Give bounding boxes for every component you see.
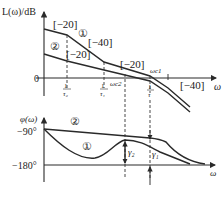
gamma2-label: γ₂ <box>128 147 135 157</box>
gamma1-label: γ₁ <box>152 149 159 159</box>
curve-1-label: ① <box>78 27 88 39</box>
phase-curve-1-label: ① <box>82 140 92 152</box>
tick-minus-90: −90° <box>17 126 37 137</box>
tick-minus-180: −180° <box>12 160 37 171</box>
curve-2-label: ② <box>50 40 60 52</box>
bode-diagram: L(ω)/dB ω 0 [−20] [−40] [−20] [−20] [−40… <box>0 0 223 197</box>
tick-1-over-tau: 1 τ <box>147 83 154 99</box>
phase-x-label: ω <box>210 168 216 178</box>
slope-label: [−40] <box>88 36 113 48</box>
magnitude-x-label: ω <box>214 81 221 92</box>
magnitude-y-label: L(ω)/dB <box>2 6 36 18</box>
svg-text:τ₂: τ₂ <box>63 90 69 98</box>
phase-curve-2-label: ② <box>70 115 80 127</box>
tick-1-over-tau2: 1 τ₂ <box>63 82 71 98</box>
svg-text:τ: τ <box>148 91 151 99</box>
slope-label: [−20] <box>66 48 91 60</box>
tick-1-over-tau1: 1 τ₁ <box>100 82 108 98</box>
magnitude-plot: L(ω)/dB ω 0 [−20] [−40] [−20] [−20] [−40… <box>2 6 221 178</box>
slope-label: [−40] <box>180 79 205 91</box>
zero-db-label: 0 <box>34 73 39 84</box>
phase-curve-2 <box>44 129 205 164</box>
phase-plot: φ(ω) ω −90° −180° ② ① γ₂ γ₁ <box>12 114 216 185</box>
slope-label: [−20] <box>53 18 78 30</box>
slope-label: [−20] <box>120 58 145 70</box>
svg-text:τ₁: τ₁ <box>100 90 105 98</box>
wc2-label: ωc2 <box>110 80 122 88</box>
phase-y-label: φ(ω) <box>20 114 37 124</box>
wc1-label: ωc1 <box>150 67 162 75</box>
phase-curve-1 <box>44 129 190 164</box>
